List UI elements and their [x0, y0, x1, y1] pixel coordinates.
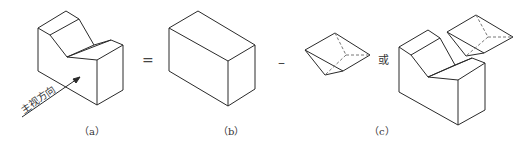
equals-sign: = [142, 52, 154, 68]
label-a: （a） [79, 123, 105, 138]
box-shape-b [169, 11, 255, 106]
figure-canvas: 主视方向 = – 或 （a） （b） （c） [0, 0, 531, 147]
or-text: 或 [378, 51, 389, 67]
label-c: （c） [369, 123, 395, 138]
v-block-with-wedge [399, 15, 513, 125]
wedge-shape-c [305, 33, 370, 75]
minus-sign: – [278, 54, 285, 70]
label-b: （b） [218, 123, 244, 138]
